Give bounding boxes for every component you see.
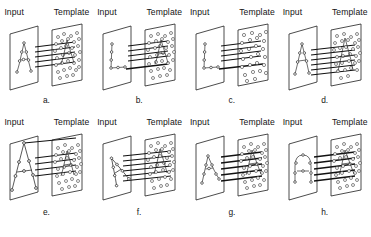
panel-h-input-plane: [289, 136, 317, 200]
panel-a: Input Template: [0, 0, 93, 110]
panel-d-template-label: Template: [332, 7, 368, 18]
panel-g-header: Input Template: [189, 117, 275, 128]
panel-f-template-points: [147, 142, 176, 190]
panel-d-header: Input Template: [282, 7, 368, 18]
panel-g-diagram: [188, 130, 276, 208]
panel-grid: Input Template: [0, 0, 371, 237]
panel-e-template-label: Template: [54, 117, 90, 128]
panel-g-template-label: Template: [239, 117, 275, 128]
panel-e-input-shape: [11, 142, 38, 192]
panel-c: Input Template: [186, 0, 279, 110]
panel-b-input-plane: [103, 26, 131, 90]
panel-c-header: Input Template: [189, 7, 275, 18]
panel-d-diagram: [281, 20, 369, 96]
panel-g-correspondence-lines: [221, 152, 262, 181]
panel-g-input-shape: [201, 155, 221, 185]
panel-b-diagram: [95, 20, 183, 96]
panel-g-input-label: Input: [189, 117, 210, 128]
panel-g: Input Template: [186, 110, 279, 222]
panel-a-diagram: [2, 20, 90, 96]
figure-root: Input Template: [0, 0, 371, 237]
panel-h-caption: h.: [321, 207, 328, 217]
panel-f-template-label: Template: [146, 117, 182, 128]
panel-f-caption: f.: [137, 207, 142, 217]
panel-d-input-shape: [293, 43, 310, 76]
panel-g-caption: g.: [228, 207, 235, 217]
panel-c-input-plane: [196, 26, 224, 90]
panel-a-template-label: Template: [54, 7, 90, 18]
panel-h-diagram: [281, 130, 369, 208]
panel-f-header: Input Template: [96, 117, 182, 128]
panel-h-input-label: Input: [282, 117, 303, 128]
panel-e-diagram: [2, 130, 90, 208]
panel-f-diagram: [95, 130, 183, 208]
panel-b-correspondence-lines: [126, 41, 168, 69]
panel-e-input-label: Input: [3, 117, 24, 128]
panel-b-template-points: [147, 32, 176, 80]
panel-h-template-label: Template: [332, 117, 368, 128]
panel-e-header: Input Template: [3, 117, 89, 128]
panel-a-caption: a.: [43, 95, 50, 105]
panel-h-correspondence-lines: [314, 152, 355, 181]
panel-d-caption: d.: [321, 95, 328, 105]
panel-b-template-label: Template: [146, 7, 182, 18]
panel-b-header: Input Template: [96, 7, 182, 18]
panel-a-template-points: [54, 32, 82, 80]
panel-b-input-shape: [110, 43, 127, 70]
panel-b-input-label: Input: [96, 7, 117, 18]
panel-c-template-label: Template: [239, 7, 275, 18]
panel-d-input-label: Input: [282, 7, 303, 18]
panel-c-diagram: [188, 20, 276, 96]
panel-c-caption: c.: [229, 95, 236, 105]
panel-a-input-shape: [16, 42, 33, 74]
panel-e-caption: e.: [43, 207, 50, 217]
panel-b-caption: b.: [136, 95, 143, 105]
panel-b: Input Template: [93, 0, 186, 110]
panel-a-header: Input Template: [3, 7, 89, 18]
panel-f-input-plane: [103, 136, 131, 200]
panel-c-input-label: Input: [189, 7, 210, 18]
panel-c-input-shape: [203, 43, 220, 70]
panel-a-input-label: Input: [3, 7, 24, 18]
panel-h-header: Input Template: [282, 117, 368, 128]
panel-h: Input Template: [278, 110, 371, 222]
panel-e: Input Template: [0, 110, 93, 222]
panel-h-input-shape: [293, 154, 312, 184]
panel-f: Input Template: [93, 110, 186, 222]
panel-e-input-plane: [10, 136, 38, 200]
panel-d: Input Template: [278, 0, 371, 110]
panel-f-input-label: Input: [96, 117, 117, 128]
panel-d-input-plane: [289, 26, 317, 90]
